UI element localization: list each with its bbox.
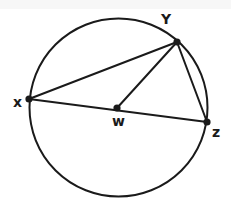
circle-geometry-figure: wxYz bbox=[0, 0, 231, 206]
diagram-canvas: wxYz bbox=[0, 0, 231, 206]
vertex-point-z bbox=[203, 118, 210, 125]
vertex-point-y bbox=[173, 38, 180, 45]
vertex-label-z: z bbox=[212, 124, 220, 140]
vertex-label-w: w bbox=[112, 113, 125, 129]
vertex-label-x: x bbox=[13, 94, 22, 110]
segment-yz bbox=[177, 42, 207, 122]
vertex-point-x bbox=[25, 95, 32, 102]
vertex-label-y: Y bbox=[160, 11, 172, 27]
vertex-point-w bbox=[113, 104, 120, 111]
segment-wy bbox=[117, 42, 177, 108]
